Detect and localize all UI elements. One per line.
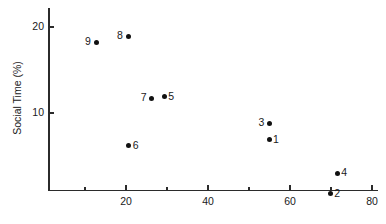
- y-axis-line: [48, 8, 50, 191]
- data-point-label: 6: [133, 140, 139, 151]
- data-point-marker: [267, 137, 272, 142]
- x-tick-mark: [84, 187, 85, 191]
- data-point-label: 2: [334, 188, 340, 199]
- data-point-marker: [335, 171, 340, 176]
- data-point-marker: [328, 191, 333, 196]
- data-point-label: 9: [85, 36, 91, 47]
- x-tick-mark: [248, 187, 249, 191]
- data-point-marker: [267, 121, 272, 126]
- scatter-chart: Social Time (%) 1020 20406080 123456789: [0, 0, 386, 224]
- data-point-label: 5: [168, 91, 174, 102]
- data-point-marker: [94, 40, 99, 45]
- x-tick-mark: [166, 187, 167, 191]
- data-point-label: 4: [341, 167, 347, 178]
- x-tick-label: 80: [357, 196, 386, 207]
- x-tick-label: 20: [111, 196, 141, 207]
- data-point-marker: [149, 96, 154, 101]
- data-point-label: 7: [141, 92, 147, 103]
- x-tick-mark: [125, 185, 126, 190]
- data-point-marker: [126, 143, 131, 148]
- data-point-label: 8: [117, 30, 123, 41]
- x-tick-mark: [207, 185, 208, 190]
- x-tick-label: 40: [193, 196, 223, 207]
- y-tick-label: 20: [18, 21, 44, 32]
- x-tick-mark: [371, 185, 372, 190]
- y-axis-title: Social Time (%): [11, 43, 23, 153]
- y-tick-mark: [49, 112, 54, 113]
- x-tick-label: 60: [275, 196, 305, 207]
- data-point-marker: [126, 34, 131, 39]
- y-tick-mark: [49, 26, 54, 27]
- data-point-label: 3: [259, 117, 265, 128]
- x-tick-mark: [330, 187, 331, 191]
- x-tick-mark: [289, 185, 290, 190]
- data-point-label: 1: [273, 134, 279, 145]
- y-tick-label: 10: [18, 107, 44, 118]
- data-point-marker: [162, 94, 167, 99]
